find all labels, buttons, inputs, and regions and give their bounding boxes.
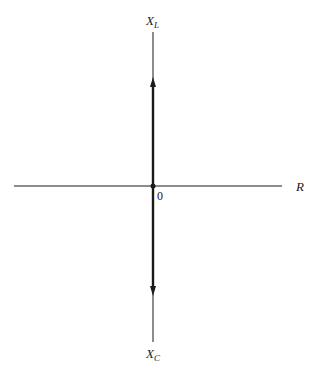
xc-label-sub: C (154, 353, 160, 363)
diagram-canvas (0, 0, 319, 373)
xl-label-sub: L (154, 20, 159, 30)
xl-label: XL (146, 14, 159, 30)
r-label: R (296, 180, 304, 193)
arrow-up-icon (150, 77, 156, 87)
arrow-down-icon (150, 286, 156, 296)
xc-label-main: X (146, 346, 154, 361)
origin-label: 0 (157, 190, 163, 202)
xc-label: XC (146, 347, 160, 363)
xl-label-main: X (146, 13, 154, 28)
origin-point (151, 184, 156, 189)
